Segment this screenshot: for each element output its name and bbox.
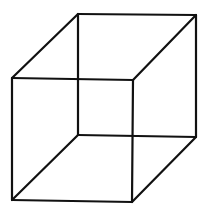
cube-edge-front_br-back_br [132, 137, 196, 202]
cube-edge-front_tr-front_br [132, 80, 133, 202]
cube-edge-front_tr-back_tr [133, 15, 196, 80]
cube-edge-front_tl-back_tl [12, 14, 78, 78]
cube-edge-front_tl-front_tr [12, 78, 133, 80]
cube-edge-front_bl-back_bl [12, 135, 78, 200]
cube-edge-back_tl-back_tr [78, 14, 196, 15]
cube-edge-front_br-front_bl [12, 200, 132, 202]
cube-drawing [0, 0, 211, 217]
necker-cube-diagram [0, 0, 211, 217]
cube-edge-back_br-back_bl [78, 135, 196, 137]
